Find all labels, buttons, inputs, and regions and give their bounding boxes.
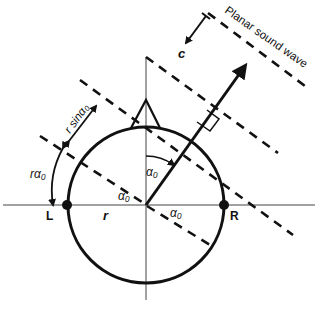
wavefront-3 [80,80,293,235]
speed-label: c [178,46,186,61]
right-ear-dot [219,200,229,210]
propagation-arrow [146,66,245,205]
angle-upper-label: α₀ [146,165,158,179]
angle-arc [146,156,174,165]
angle-left-label: α₀ [118,189,130,203]
arc-length-label: rα₀ [30,167,46,181]
wave-label: Planar sound wave [223,4,310,70]
radius-label: r [103,208,109,223]
wavefront-2 [146,57,278,153]
left-ear-label: L [46,209,53,223]
left-ear-dot [62,200,72,210]
arc-length-arrow [52,148,63,205]
c-arrow [186,16,206,43]
right-ear-label: R [230,209,239,223]
diagram-canvas: Planar sound wave c L R r rα₀ r sinα₀ α₀… [0,0,318,310]
angle-right-label: α₀ [170,206,182,220]
